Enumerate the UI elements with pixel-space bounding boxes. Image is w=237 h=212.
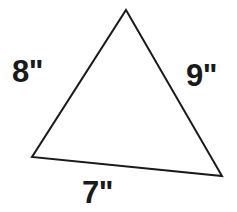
side-label-bottom: 7" xyxy=(82,177,113,208)
side-label-right: 9" xyxy=(186,60,217,91)
triangle-shape xyxy=(32,10,222,176)
side-label-left: 8" xyxy=(12,56,43,87)
triangle-figure xyxy=(0,0,237,212)
